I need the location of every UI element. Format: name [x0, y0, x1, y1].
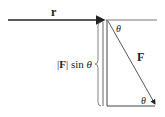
r-label: r: [51, 5, 57, 19]
f-label: F: [137, 50, 144, 64]
torque-diagram: r θ F |F| sin θ θ: [0, 0, 165, 117]
theta-top-label: θ: [116, 23, 121, 34]
perp-component-label: |F| sin θ: [57, 58, 92, 70]
brace-icon: [95, 22, 101, 106]
sin-text: sin: [68, 58, 86, 70]
perp-theta: θ: [86, 58, 92, 70]
theta-bottom-label: θ: [141, 95, 146, 106]
